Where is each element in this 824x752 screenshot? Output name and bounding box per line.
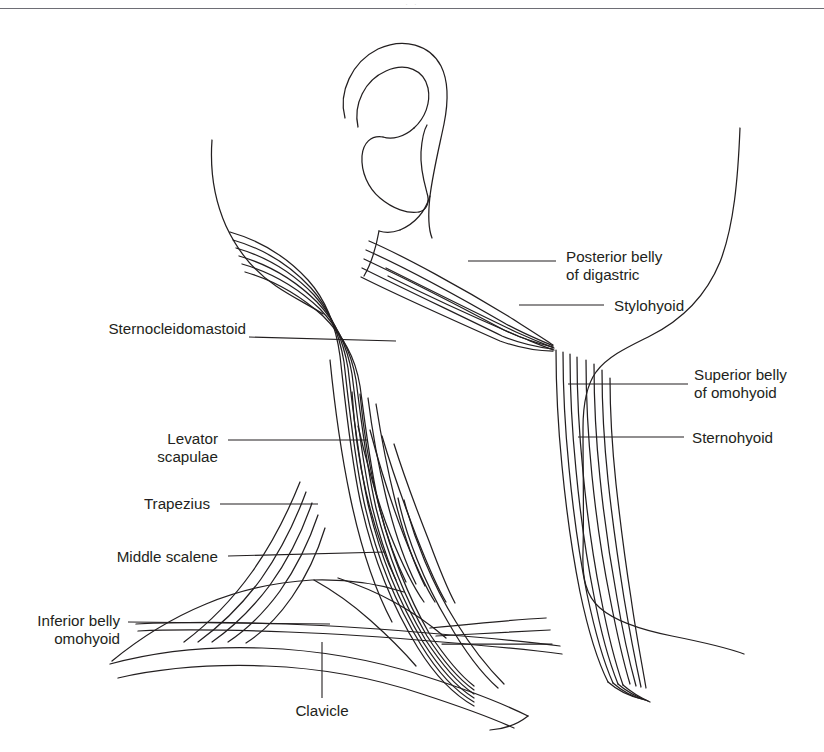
figure-page: · · [0,0,824,752]
label-superior-belly-omohyoid-line1: Superior belly [694,366,824,384]
label-levator-scapulae-line2: scapulae [20,448,218,466]
label-stylohyoid: Stylohyoid [614,297,814,315]
label-sternocleidomastoid: Sternocleidomastoid [20,320,246,338]
label-clavicle: Clavicle [262,702,382,720]
label-sternohyoid: Sternohyoid [692,429,822,447]
label-inferior-belly-omohyoid-line2: omohyoid [6,630,120,648]
label-posterior-belly-digastric-line1: Posterior belly [566,248,796,266]
label-middle-scalene: Middle scalene [20,548,218,566]
label-trapezius: Trapezius [20,495,210,513]
label-superior-belly-omohyoid-line2: of omohyoid [694,384,824,402]
label-inferior-belly-omohyoid-line1: Inferior belly [6,612,120,630]
label-levator-scapulae-line1: Levator [20,430,218,448]
leader-middle-scalene [228,552,386,556]
leader-inferior-belly-omohyoid [128,622,330,624]
leader-sternocleidomastoid [249,337,396,341]
label-posterior-belly-digastric-line2: of digastric [566,266,796,284]
